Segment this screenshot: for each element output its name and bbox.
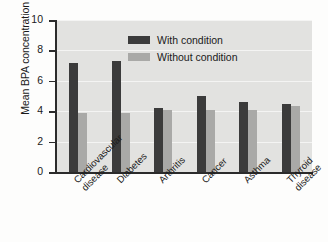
y-tick-label: 0 (19, 165, 43, 177)
x-axis-labels: Cardiovascular diseaseDiabetesArthritisC… (57, 174, 312, 240)
legend: With conditionWithout condition (128, 34, 238, 63)
bar-group (57, 20, 100, 172)
y-tick-label: 8 (19, 43, 43, 55)
legend-swatch (128, 36, 150, 44)
y-tick-label: 4 (19, 104, 43, 116)
legend-label: With condition (157, 34, 223, 46)
bar-chart: Mean BPA concentration (ng/ml) 0246810 C… (0, 0, 328, 242)
bar (69, 63, 78, 172)
y-tick-label: 10 (19, 13, 43, 25)
y-tick-label: 2 (19, 135, 43, 147)
legend-swatch (128, 53, 150, 61)
legend-item: Without condition (128, 51, 238, 63)
y-tick-label: 6 (19, 74, 43, 86)
legend-item: With condition (128, 34, 238, 46)
legend-label: Without condition (157, 51, 238, 63)
